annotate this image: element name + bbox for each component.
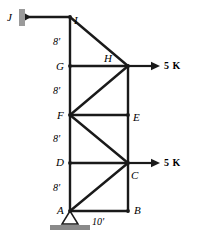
joint-label-f: F bbox=[57, 110, 64, 121]
load-arrowhead-c bbox=[151, 159, 160, 167]
dimension-label-panel-F-D: 8' bbox=[53, 134, 60, 144]
dimension-label-panel-D-A: 8' bbox=[53, 183, 60, 193]
truss-member-f-h bbox=[70, 66, 128, 115]
joint-label-i: I bbox=[74, 15, 78, 26]
dimension-label-span-A-B: 10' bbox=[92, 217, 104, 227]
load-value-label-c: 5 K bbox=[164, 158, 181, 168]
pin-support-at-A bbox=[62, 211, 78, 224]
joint-label-c: C bbox=[131, 170, 138, 181]
load-arrowhead-h bbox=[151, 62, 160, 70]
joint-label-e: E bbox=[133, 112, 140, 123]
truss-drawing-canvas bbox=[0, 0, 203, 236]
joint-dot-e bbox=[126, 113, 130, 117]
joint-dot-d bbox=[68, 161, 72, 165]
joint-label-b: B bbox=[134, 205, 141, 216]
wall-connector-nub-icon bbox=[25, 14, 31, 21]
dimension-label-panel-G-F: 8' bbox=[53, 86, 60, 96]
joint-label-d: D bbox=[56, 157, 64, 168]
truss-members bbox=[25, 17, 128, 211]
dimension-label-panel-I-G: 8' bbox=[53, 37, 60, 47]
truss-member-i-h bbox=[70, 17, 128, 66]
truss-member-f-c bbox=[70, 115, 128, 163]
joint-dot-g bbox=[68, 64, 72, 68]
joint-dot-b bbox=[126, 209, 130, 213]
ground-hatch-bar bbox=[50, 225, 90, 230]
joint-dot-f bbox=[68, 113, 72, 117]
joint-label-a: A bbox=[57, 205, 64, 216]
wall-support-at-J bbox=[19, 9, 25, 26]
joint-label-j: J bbox=[7, 12, 12, 23]
truss-diagram-figure: ABCDEFGHIJ 8'8'8'8'10' 5 K5 K bbox=[0, 0, 203, 236]
load-value-label-h: 5 K bbox=[164, 61, 181, 71]
joint-dot-i bbox=[68, 15, 72, 19]
joint-label-g: G bbox=[56, 61, 64, 72]
truss-member-a-c bbox=[70, 163, 128, 211]
joint-label-h: H bbox=[104, 53, 112, 64]
